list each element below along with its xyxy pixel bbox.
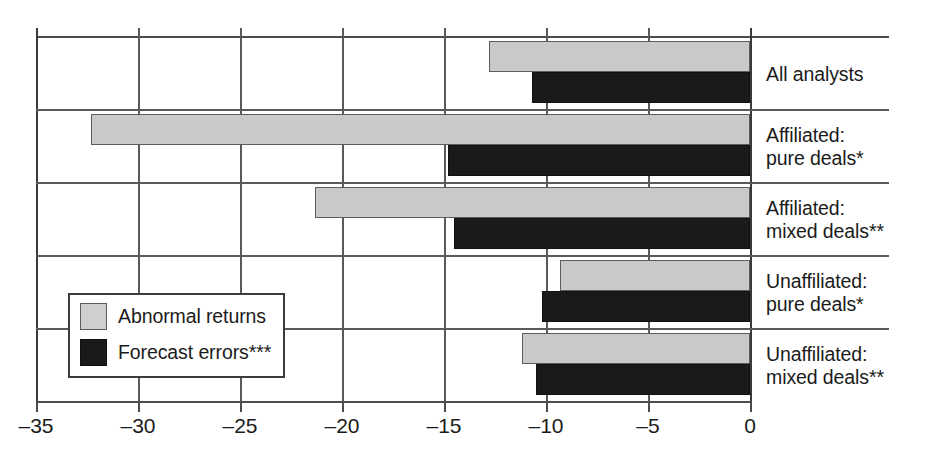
legend-swatch-black-icon — [80, 339, 107, 366]
x-tick--5 — [648, 401, 650, 412]
bar-group-affiliated-pure — [36, 109, 889, 182]
bar-forecast-errors-3[interactable] — [542, 291, 750, 322]
x-tick--10 — [546, 401, 548, 412]
bar-group-all-analysts — [36, 36, 889, 109]
category-label-unaffiliated-pure: Unaffiliated: pure deals* — [766, 270, 867, 316]
bar-abnormal-returns-1[interactable] — [91, 114, 750, 145]
x-tick-0 — [750, 401, 752, 412]
legend-swatch-gray-icon — [80, 303, 107, 330]
legend-label-forecast-errors: Forecast errors*** — [118, 341, 271, 364]
legend-item-abnormal-returns[interactable]: Abnormal returns — [80, 303, 266, 330]
bar-forecast-errors-4[interactable] — [536, 364, 750, 395]
x-tick-label--35: –35 — [18, 414, 53, 438]
bar-forecast-errors-0[interactable] — [532, 72, 750, 103]
bar-abnormal-returns-4[interactable] — [522, 333, 750, 364]
bar-group-affiliated-mixed — [36, 182, 889, 255]
bar-forecast-errors-2[interactable] — [454, 218, 750, 249]
x-tick--25 — [240, 401, 242, 412]
x-tick-label--15: –15 — [426, 414, 461, 438]
x-tick-label--20: –20 — [324, 414, 359, 438]
bar-forecast-errors-1[interactable] — [448, 145, 750, 176]
x-tick-label--25: –25 — [222, 414, 257, 438]
x-axis-line — [36, 401, 750, 403]
category-label-affiliated-pure: Affiliated: pure deals* — [766, 124, 864, 170]
x-tick-label-0: 0 — [744, 414, 756, 438]
legend-item-forecast-errors[interactable]: Forecast errors*** — [80, 339, 271, 366]
bar-abnormal-returns-0[interactable] — [489, 41, 750, 72]
x-tick-label--10: –10 — [528, 414, 563, 438]
bar-chart-figure: All analysts Affiliated: pure deals* Aff… — [0, 0, 926, 457]
legend: Abnormal returns Forecast errors*** — [68, 293, 285, 378]
bar-abnormal-returns-2[interactable] — [315, 187, 750, 218]
legend-label-abnormal-returns: Abnormal returns — [118, 305, 266, 328]
x-tick-label--30: –30 — [120, 414, 155, 438]
x-tick-label--5: –5 — [636, 414, 659, 438]
x-tick--35 — [36, 401, 38, 412]
category-label-affiliated-mixed: Affiliated: mixed deals** — [766, 197, 884, 243]
category-label-all-analysts: All analysts — [766, 63, 863, 86]
x-tick--20 — [342, 401, 344, 412]
x-tick--30 — [138, 401, 140, 412]
x-tick--15 — [444, 401, 446, 412]
bar-abnormal-returns-3[interactable] — [560, 260, 750, 291]
category-label-unaffiliated-mixed: Unaffiliated: mixed deals** — [766, 343, 884, 389]
